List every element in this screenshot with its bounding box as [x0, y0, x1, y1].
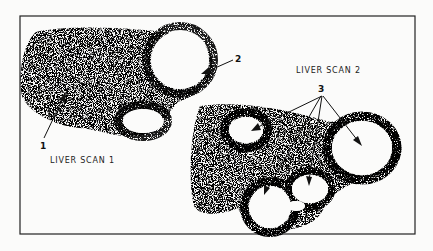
- lesion-small-scan1: [123, 109, 163, 133]
- callout-3-number: 3: [318, 84, 324, 94]
- liver-scan-diagram: 1 LIVER SCAN 1 2 LIVER SCAN 2 3: [0, 0, 433, 251]
- callout-1-number: 1: [40, 141, 46, 151]
- lesion-scan2-lower-left: [249, 186, 291, 228]
- scan-1-label: LIVER SCAN 1: [50, 156, 115, 165]
- callout-2-number: 2: [235, 54, 241, 64]
- scan-2-label: LIVER SCAN 2: [296, 66, 361, 75]
- lesion-scan2-tiny: [287, 201, 305, 211]
- lesion-large-scan1: [151, 31, 209, 89]
- lesion-scan2-large-right: [332, 121, 392, 175]
